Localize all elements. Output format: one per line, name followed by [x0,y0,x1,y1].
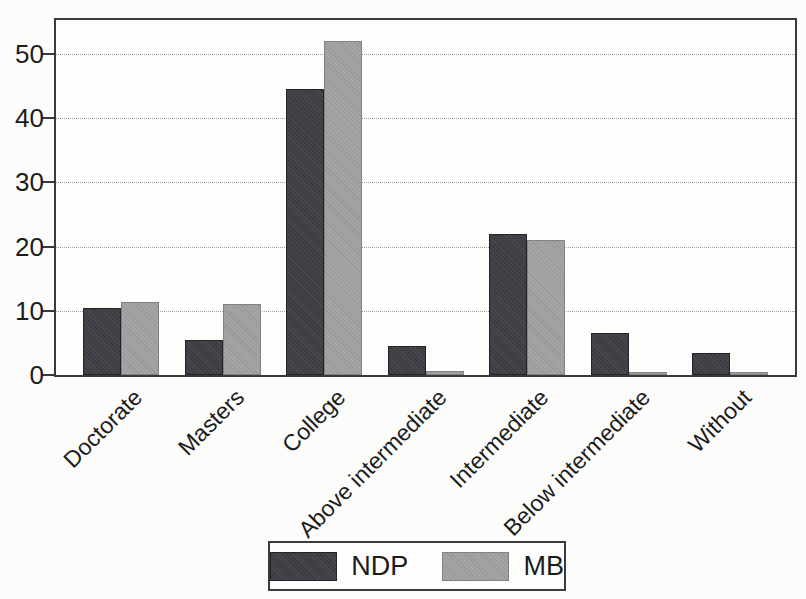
bar-mb-intermediate [527,240,565,375]
y-tick-label-50: 50 [0,40,44,68]
legend: NDPMB [268,541,566,591]
gridline-y-30 [56,182,795,183]
bar-mb-doctorate [121,302,159,375]
y-tick-label-40: 40 [0,104,44,132]
bar-mb-above-intermediate [426,371,464,375]
bar-ndp-masters [185,340,223,375]
bar-ndp-college [286,89,324,375]
y-tick-label-10: 10 [0,297,44,325]
bar-ndp-without [692,353,730,375]
bar-ndp-below-intermediate [591,333,629,375]
gridline-y-40 [56,118,795,119]
bar-ndp-doctorate [83,308,121,375]
gridline-y-10 [56,311,795,312]
bar-mb-masters [223,304,261,375]
x-tick-label-without: Without [683,384,757,458]
x-tick-label-doctorate: Doctorate [58,384,148,474]
bar-ndp-above-intermediate [388,346,426,375]
gridline-y-20 [56,247,795,248]
x-tick-label-college: College [277,384,351,458]
plot-area [54,18,797,377]
bar-mb-without [730,372,768,375]
bar-mb-college [324,41,362,375]
x-tick-label-intermediate: Intermediate [445,384,555,494]
legend-swatch-mb [442,552,509,581]
legend-label-ndp: NDP [351,551,408,582]
bar-mb-below-intermediate [629,372,667,375]
bar-ndp-intermediate [489,234,527,375]
y-tick-label-30: 30 [0,168,44,196]
gridline-y-50 [56,54,795,55]
x-tick-label-masters: Masters [173,384,250,461]
y-tick-label-20: 20 [0,233,44,261]
bar-chart-figure: 01020304050 DoctorateMastersCollegeAbove… [0,0,806,599]
legend-label-mb: MB [523,551,564,582]
y-tick-label-0: 0 [0,361,44,389]
legend-swatch-ndp [270,552,337,581]
